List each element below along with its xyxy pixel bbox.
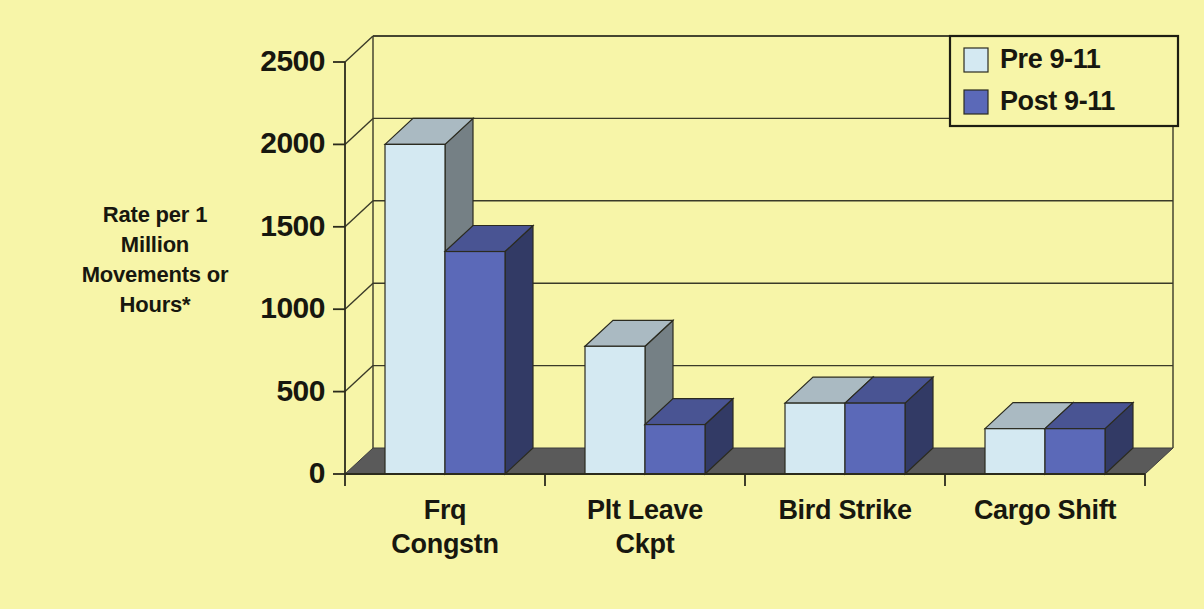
legend-item-post-9-11[interactable]: Post 9-11	[964, 86, 1115, 116]
bar-chart: 05001000150020002500 FrqCongstnPlt Leave…	[0, 0, 1204, 609]
bar-front-face	[1045, 429, 1105, 474]
y-tick-label: 0	[309, 456, 325, 489]
y-tick-label: 1500	[260, 209, 325, 242]
y-tick-label: 2500	[260, 44, 325, 77]
bar-front-face	[845, 403, 905, 474]
x-axis-category-label: Bird Strike	[778, 495, 912, 525]
legend-label: Post 9-11	[1000, 86, 1115, 116]
legend-item-pre-9-11[interactable]: Pre 9-11	[964, 44, 1101, 74]
y-tick-label: 500	[276, 374, 325, 407]
bar-front-face	[645, 425, 705, 474]
bar-front-face	[445, 252, 505, 474]
chart-legend[interactable]: Pre 9-11Post 9-11	[950, 36, 1178, 126]
legend-swatch	[964, 90, 988, 114]
bar-front-face	[585, 346, 645, 474]
bar-front-face	[985, 429, 1045, 474]
chart-container: 05001000150020002500 FrqCongstnPlt Leave…	[0, 0, 1204, 609]
bar-post-9-11-2	[845, 377, 933, 474]
bar-side-face	[505, 226, 533, 474]
y-tick-label: 1000	[260, 291, 325, 324]
y-tick-label: 2000	[260, 126, 325, 159]
bar-post-9-11-0	[445, 226, 533, 474]
bar-front-face	[385, 144, 445, 474]
x-axis-category-label: Cargo Shift	[974, 495, 1117, 525]
legend-swatch	[964, 48, 988, 72]
legend-label: Pre 9-11	[1000, 44, 1101, 74]
bar-front-face	[785, 403, 845, 474]
